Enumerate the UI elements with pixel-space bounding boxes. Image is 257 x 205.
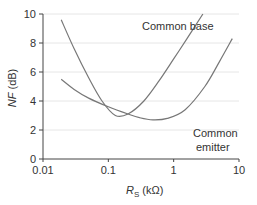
y-axis-label: NF (dB) [6,69,18,108]
noise-figure-chart: 0246810 0.010.1110 Common base Common em… [0,0,257,205]
x-tick-label: 10 [233,164,245,176]
x-axis-ticks: 0.010.1110 [32,159,245,176]
curve-common-emitter [61,39,232,120]
y-axis-ticks: 0246810 [24,8,43,165]
y-tick-label: 2 [30,124,36,136]
y-tick-label: 4 [30,95,36,107]
x-tick-label: 1 [171,164,177,176]
chart-svg: 0246810 0.010.1110 Common base Common em… [0,0,257,205]
y-tick-label: 10 [24,8,36,20]
x-tick-label: 0.1 [101,164,116,176]
annotation-common-emitter-line1: Common [193,127,238,139]
x-axis-label: RS (kΩ) [126,184,163,199]
y-tick-label: 6 [30,66,36,78]
annotation-common-base: Common base [142,20,214,32]
x-tick-label: 0.01 [32,164,53,176]
y-tick-label: 8 [30,37,36,49]
annotation-common-emitter-line2: emitter [196,141,230,153]
